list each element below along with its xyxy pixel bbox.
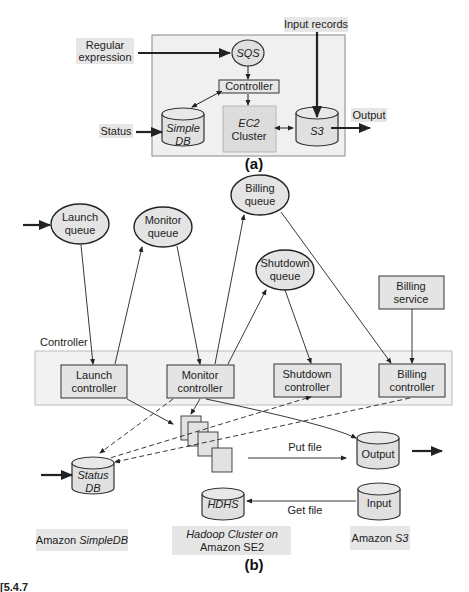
controller-band-label: Controller <box>40 336 88 348</box>
hadoop-label-line1: Hadoop Cluster on <box>186 528 278 540</box>
simpledb-label-line2: DB <box>175 135 190 147</box>
simpledb-label-line1: Simple <box>166 122 200 134</box>
billing-service-line2: service <box>394 293 429 305</box>
status-label: Status <box>100 125 132 137</box>
billing-service-line1: Billing <box>396 280 425 292</box>
hadoop-label-line2: Amazon SE2 <box>200 541 264 553</box>
shutdown-queue-line2: queue <box>270 270 301 282</box>
figure-b-caption: (b) <box>244 556 263 573</box>
shutdown-controller-line1: Shutdown <box>283 368 332 380</box>
input-label: Input <box>367 497 391 509</box>
sqs-label: SQS <box>236 47 260 59</box>
diagram-canvas: Regular expression SQS Controller Simple… <box>0 0 469 592</box>
output-label: Output <box>352 109 385 121</box>
status-db-line1: Status <box>77 469 109 481</box>
figure-a-caption: (a) <box>245 155 263 172</box>
launch-queue-line2: queue <box>65 224 96 236</box>
figure-a: Regular expression SQS Controller Simple… <box>76 17 387 172</box>
input-records-label: Input records <box>284 18 349 30</box>
figure-b: Controller Launch queue Monitor queue Bi… <box>23 175 452 573</box>
launch-queue-line1: Launch <box>62 211 98 223</box>
controller-label: Controller <box>225 80 273 92</box>
amazon-s3-label: Amazon S3 <box>352 532 410 544</box>
hadoop-nodes <box>181 416 232 472</box>
shutdown-controller-line2: controller <box>284 381 330 393</box>
billing-queue-line2: queue <box>245 195 276 207</box>
billing-controller-line1: Billing <box>397 368 426 380</box>
s3-label: S3 <box>310 125 324 137</box>
billing-queue-line1: Billing <box>245 182 274 194</box>
partial-caption: [5.4.7 <box>0 581 28 592</box>
launch-controller-line2: controller <box>71 382 117 394</box>
put-file-label: Put file <box>288 441 322 453</box>
regex-label-line2: expression <box>78 51 131 63</box>
ec2-label-line2: Cluster <box>232 130 267 142</box>
monitor-queue-line2: queue <box>148 227 179 239</box>
regex-label-line1: Regular <box>86 39 125 51</box>
ec2-cluster-box <box>223 106 276 152</box>
amazon-simpledb-label: Amazon SimpleDB <box>36 534 128 546</box>
output-label: Output <box>361 448 394 460</box>
monitor-controller-line1: Monitor <box>182 369 219 381</box>
billing-controller-line2: controller <box>389 381 435 393</box>
hdhs-label: HDHS <box>207 498 239 510</box>
queue-controller-arrows <box>81 212 412 364</box>
shutdown-queue-line1: Shutdown <box>261 257 310 269</box>
ec2-label-line1: EC2 <box>238 117 259 129</box>
monitor-queue-line1: Monitor <box>145 214 182 226</box>
monitor-controller-line2: controller <box>177 382 223 394</box>
launch-controller-line1: Launch <box>76 369 112 381</box>
get-file-label: Get file <box>288 504 323 516</box>
status-db-line2: DB <box>85 482 100 494</box>
